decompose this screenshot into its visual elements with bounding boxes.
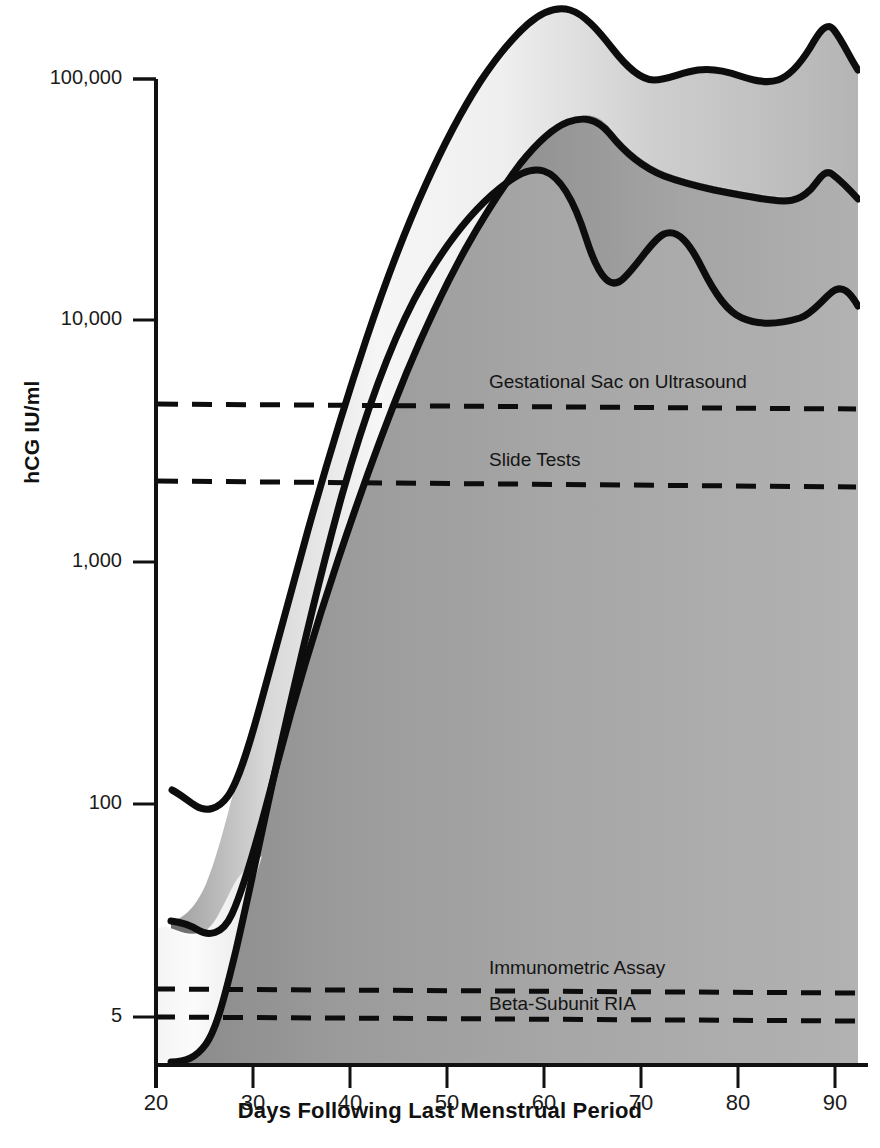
annotation-gestational-sac: Gestational Sac on Ultrasound [489,371,747,393]
chart-root: 100,000 10,000 1,000 100 5 20 30 40 50 6… [0,0,880,1148]
y-tick-label-1000: 1,000 [0,549,122,572]
y-tick-label-5: 5 [0,1004,122,1027]
annotation-slide-tests: Slide Tests [489,449,581,471]
annotation-immunometric-assay: Immunometric Assay [489,957,665,979]
y-tick-label-10000: 10,000 [0,307,122,330]
y-tick-label-100000: 100,000 [0,66,122,89]
y-axis-title: hCG IU/ml [20,342,44,522]
annotation-beta-subunit-ria: Beta-Subunit RIA [489,993,636,1015]
hcg-log-chart [0,0,880,1148]
y-tick-label-100: 100 [0,791,122,814]
x-axis-title: Days Following Last Menstrual Period [0,1098,880,1124]
